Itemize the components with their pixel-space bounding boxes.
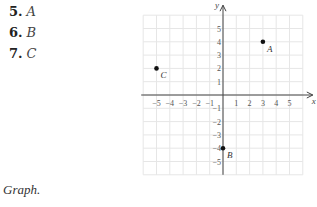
svg-text:5: 5 [217, 25, 221, 34]
svg-text:−2: −2 [192, 99, 201, 108]
svg-text:4: 4 [217, 38, 221, 47]
svg-text:5: 5 [288, 99, 292, 108]
svg-text:−3: −3 [212, 131, 221, 140]
svg-text:B: B [227, 150, 233, 160]
svg-text:4: 4 [274, 99, 278, 108]
svg-text:2: 2 [217, 64, 221, 73]
svg-text:x: x [311, 96, 316, 106]
svg-text:1: 1 [217, 78, 221, 87]
svg-text:3: 3 [261, 99, 265, 108]
caption: Graph. [3, 182, 40, 198]
svg-text:−4: −4 [212, 144, 221, 153]
svg-text:y: y [214, 0, 219, 10]
coordinate-plane: xy−5−4−3−2−112345−5−4−3−2−112345ABC [0, 0, 317, 207]
svg-text:−3: −3 [179, 99, 188, 108]
svg-text:−1: −1 [212, 104, 221, 113]
svg-text:−2: −2 [212, 118, 221, 127]
svg-text:−5: −5 [152, 99, 161, 108]
svg-text:−5: −5 [212, 158, 221, 167]
svg-text:A: A [266, 44, 273, 54]
svg-text:1: 1 [234, 99, 238, 108]
svg-text:3: 3 [217, 51, 221, 60]
svg-text:−4: −4 [166, 99, 175, 108]
svg-text:C: C [161, 70, 168, 80]
svg-text:2: 2 [248, 99, 252, 108]
